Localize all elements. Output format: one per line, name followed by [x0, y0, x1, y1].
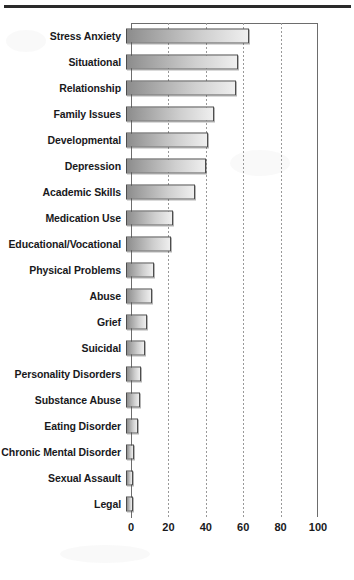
bar-track — [126, 75, 354, 101]
category-label: Stress Anxiety — [0, 30, 126, 42]
bar-track — [126, 283, 354, 309]
bar[interactable] — [126, 237, 171, 252]
bar-row: Academic Skills — [0, 179, 354, 205]
bar-track — [126, 465, 354, 491]
category-label: Academic Skills — [0, 186, 126, 198]
bar-track — [126, 257, 354, 283]
x-tick-label-100: 100 — [309, 521, 327, 533]
bar-row: Situational — [0, 49, 354, 75]
bar-row: Family Issues — [0, 101, 354, 127]
bar-track — [126, 335, 354, 361]
bar-row: Sexual Assault — [0, 465, 354, 491]
category-label: Legal — [0, 498, 126, 510]
category-label: Medication Use — [0, 212, 126, 224]
category-label: Developmental — [0, 134, 126, 146]
category-label: Relationship — [0, 82, 126, 94]
bar-track — [126, 231, 354, 257]
x-tick-label-0: 0 — [128, 521, 134, 533]
bar[interactable] — [126, 419, 138, 434]
bar[interactable] — [126, 471, 133, 486]
bar[interactable] — [126, 185, 195, 200]
bar-row: Suicidal — [0, 335, 354, 361]
scan-artifact — [60, 545, 150, 563]
bar-row: Personality Disorders — [0, 361, 354, 387]
bar[interactable] — [126, 159, 206, 174]
x-tick-label-60: 60 — [237, 521, 249, 533]
bar[interactable] — [126, 55, 238, 70]
category-label: Sexual Assault — [0, 472, 126, 484]
bar[interactable] — [126, 367, 141, 382]
bar[interactable] — [126, 497, 133, 512]
bar-row: Legal — [0, 491, 354, 517]
bar-row: Eating Disorder — [0, 413, 354, 439]
bar-track — [126, 179, 354, 205]
bar-row: Developmental — [0, 127, 354, 153]
category-label: Personality Disorders — [0, 368, 126, 380]
category-label: Suicidal — [0, 342, 126, 354]
x-axis-tick-labels: 020406080100 — [0, 521, 354, 541]
category-label: Grief — [0, 316, 126, 328]
x-tick-label-80: 80 — [274, 521, 286, 533]
category-label: Depression — [0, 160, 126, 172]
category-label: Family Issues — [0, 108, 126, 120]
bar-row: Depression — [0, 153, 354, 179]
bar[interactable] — [126, 133, 208, 148]
bar-row: Chronic Mental Disorder — [0, 439, 354, 465]
bar-row: Stress Anxiety — [0, 23, 354, 49]
bar-track — [126, 361, 354, 387]
category-label: Physical Problems — [0, 264, 126, 276]
bar[interactable] — [126, 341, 145, 356]
bar-track — [126, 101, 354, 127]
category-label: Substance Abuse — [0, 394, 126, 406]
category-label: Situational — [0, 56, 126, 68]
bar[interactable] — [126, 29, 249, 44]
bar-track — [126, 309, 354, 335]
bar[interactable] — [126, 445, 134, 460]
bar-track — [126, 439, 354, 465]
bar-row: Relationship — [0, 75, 354, 101]
bar-row: Medication Use — [0, 205, 354, 231]
bar[interactable] — [126, 107, 214, 122]
bar-track — [126, 205, 354, 231]
bar-track — [126, 413, 354, 439]
bar[interactable] — [126, 81, 236, 96]
bar-track — [126, 491, 354, 517]
bar-row: Physical Problems — [0, 257, 354, 283]
bar[interactable] — [126, 315, 147, 330]
bar-row: Educational/Vocational — [0, 231, 354, 257]
bar-track — [126, 23, 354, 49]
horizontal-bar-chart: Stress AnxietySituationalRelationshipFam… — [0, 0, 354, 580]
x-tick-label-20: 20 — [162, 521, 174, 533]
bar[interactable] — [126, 289, 152, 304]
bar-row: Abuse — [0, 283, 354, 309]
x-tick-label-40: 40 — [200, 521, 212, 533]
bar-track — [126, 49, 354, 75]
bar-row: Substance Abuse — [0, 387, 354, 413]
bar-track — [126, 127, 354, 153]
category-label: Eating Disorder — [0, 420, 126, 432]
bar-track — [126, 387, 354, 413]
bar[interactable] — [126, 393, 140, 408]
bar[interactable] — [126, 211, 173, 226]
bar-rows: Stress AnxietySituationalRelationshipFam… — [0, 23, 354, 517]
bar-row: Grief — [0, 309, 354, 335]
bar-track — [126, 153, 354, 179]
category-label: Educational/Vocational — [0, 238, 126, 250]
category-label: Abuse — [0, 290, 126, 302]
category-label: Chronic Mental Disorder — [0, 446, 126, 458]
bar[interactable] — [126, 263, 154, 278]
